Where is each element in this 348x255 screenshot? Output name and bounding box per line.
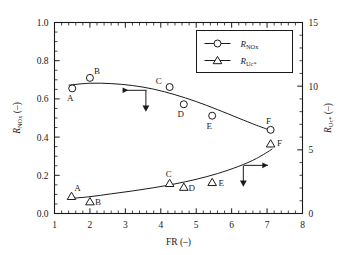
point-label: F	[266, 116, 271, 126]
point-label: D	[178, 109, 185, 119]
point-label: B	[95, 197, 101, 207]
x-tick-label: 5	[194, 220, 199, 230]
x-tick-label: 2	[88, 220, 93, 230]
x-tick-label: 1	[52, 220, 57, 230]
point-label: E	[206, 121, 212, 131]
point-label: E	[218, 178, 224, 188]
marker-circle	[267, 126, 274, 133]
chart-svg: 12345678 0.00.20.40.60.81.0 051015 ABCDE…	[0, 0, 348, 255]
marker-circle	[86, 74, 93, 81]
point-label: D	[189, 183, 196, 193]
y-right-tick-label: 15	[309, 18, 319, 28]
y-right-tick-label: 0	[309, 209, 314, 219]
point-label: A	[67, 93, 74, 103]
figure-container: 12345678 0.00.20.40.60.81.0 051015 ABCDE…	[0, 0, 348, 255]
x-tick-label: 8	[300, 220, 305, 230]
point-label: C	[166, 169, 172, 179]
legend-box	[197, 31, 293, 73]
x-tick-label: 7	[265, 220, 270, 230]
x-tick-label: 3	[123, 220, 128, 230]
x-tick-label: 4	[158, 220, 163, 230]
y-right-tick-label: 5	[309, 145, 314, 155]
marker-circle	[166, 84, 173, 91]
point-label: F	[277, 138, 282, 148]
y-left-tick-label: 0.4	[37, 133, 49, 143]
y-left-tick-label: 0.2	[37, 171, 49, 181]
marker-circle	[69, 85, 76, 92]
legend: RNOxRUc*	[197, 31, 293, 73]
point-label: B	[94, 66, 100, 76]
x-axis-title: FR (–)	[166, 237, 191, 248]
marker-circle	[209, 112, 216, 119]
y-right-tick-label: 10	[309, 82, 319, 92]
y-left-tick-label: 0.6	[37, 94, 49, 104]
point-label: C	[156, 76, 162, 86]
y-left-tick-label: 1.0	[37, 18, 49, 28]
point-label: A	[74, 183, 81, 193]
chart-background	[0, 0, 348, 255]
marker-circle	[214, 40, 221, 47]
x-tick-label: 6	[229, 220, 234, 230]
marker-circle	[180, 101, 187, 108]
y-left-tick-label: 0.8	[37, 56, 49, 66]
y-left-tick-label: 0.0	[37, 209, 49, 219]
